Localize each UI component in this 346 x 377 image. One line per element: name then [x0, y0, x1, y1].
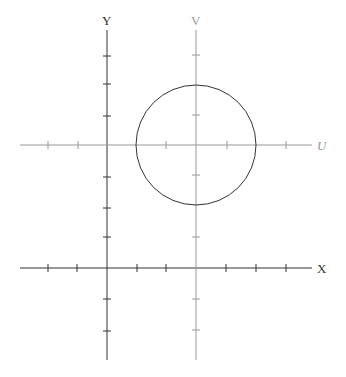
x-axis-label: X	[317, 261, 327, 276]
v-axis-label: V	[191, 13, 201, 28]
v-axis	[192, 30, 200, 360]
coordinate-diagram: X Y U V	[0, 0, 346, 377]
u-axis-label: U	[317, 138, 328, 153]
y-axis	[103, 30, 111, 360]
u-axis	[20, 141, 312, 149]
x-axis	[20, 264, 312, 272]
y-axis-label: Y	[102, 13, 112, 28]
